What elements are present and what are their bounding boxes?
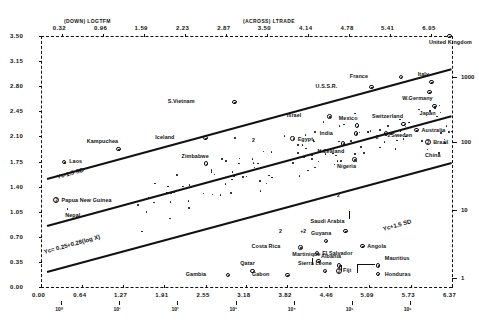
x-tick-label: 6.37 bbox=[443, 292, 456, 298]
top-tick-label: 2.23 bbox=[176, 25, 189, 31]
right-axis-tick bbox=[452, 77, 457, 78]
right-axis-line bbox=[452, 36, 453, 287]
data-point-marker bbox=[432, 104, 436, 108]
x-tick-mark bbox=[206, 285, 207, 288]
scatter-point bbox=[396, 140, 398, 142]
top-tick-label: 0.96 bbox=[94, 25, 107, 31]
scatter-point bbox=[379, 147, 381, 149]
point-label: Albania bbox=[309, 253, 353, 259]
top-tick-label: 5.41 bbox=[381, 25, 394, 31]
point-label: S.Vietnam bbox=[0, 98, 195, 104]
x-tick-mark bbox=[41, 285, 42, 288]
point-label: Nigeria bbox=[325, 163, 369, 169]
data-point-marker bbox=[429, 80, 433, 84]
scatter-point bbox=[268, 175, 270, 177]
scatter-point bbox=[313, 141, 315, 143]
data-point-marker bbox=[427, 149, 429, 151]
data-point-marker bbox=[427, 90, 431, 94]
x-tick-mark bbox=[287, 285, 288, 288]
scatter-point bbox=[403, 138, 405, 140]
x-tick-mark bbox=[411, 285, 412, 288]
right-axis-label: 1000 bbox=[461, 74, 474, 80]
y-tick-mark bbox=[39, 237, 42, 238]
scatter-point bbox=[141, 231, 143, 233]
x-power-tick bbox=[352, 301, 353, 305]
scatter-point bbox=[252, 158, 254, 160]
right-axis-tick bbox=[452, 210, 457, 211]
y-tick-label: 1.40 bbox=[10, 184, 23, 190]
scatter-point bbox=[212, 194, 214, 196]
x-tick-label: 0.00 bbox=[32, 292, 45, 298]
y-tick-label: 1.05 bbox=[10, 209, 23, 215]
scatter-point bbox=[169, 218, 171, 220]
point-label: U.S.S.R. bbox=[0, 83, 337, 89]
scatter-point bbox=[408, 122, 410, 124]
scatter-point bbox=[203, 193, 205, 195]
y-tick-label: 0.35 bbox=[10, 259, 23, 265]
top-axis-line bbox=[41, 36, 452, 37]
point-label: Israel bbox=[0, 112, 301, 118]
y-tick-label: 0.00 bbox=[10, 284, 23, 290]
x-tick-mark bbox=[246, 285, 247, 288]
overlap-count-marker: 2 bbox=[53, 197, 59, 203]
scatter-point bbox=[448, 131, 450, 133]
scatter-point bbox=[234, 137, 236, 139]
point-label: Australia bbox=[422, 127, 446, 133]
data-point-marker bbox=[343, 229, 347, 233]
point-label: Laos bbox=[69, 158, 82, 164]
scatter-point bbox=[266, 183, 268, 185]
point-label: Angola bbox=[367, 243, 386, 249]
y-tick-mark bbox=[39, 212, 42, 213]
saudi-arabia-leader-line bbox=[349, 211, 350, 219]
point-label: Brazil bbox=[433, 139, 448, 145]
scatter-point bbox=[253, 162, 255, 164]
scatter-point bbox=[387, 125, 389, 127]
mauritius-bracket-left bbox=[357, 264, 358, 273]
point-label: France bbox=[0, 73, 368, 79]
x-power-tick bbox=[410, 301, 411, 305]
data-point-marker bbox=[414, 128, 418, 132]
data-point-marker bbox=[447, 34, 451, 38]
x-tick-label: 3.18 bbox=[237, 292, 250, 298]
scatter-point bbox=[368, 132, 370, 134]
lower-sd-band-label: Yc-1.5 SD bbox=[56, 167, 84, 180]
x-tick-mark bbox=[369, 285, 370, 288]
scatter-point bbox=[292, 162, 294, 164]
x-tick-mark bbox=[82, 285, 83, 288]
scatter-point bbox=[363, 152, 365, 154]
x-tick-mark bbox=[164, 285, 165, 288]
point-label: Gabon bbox=[0, 271, 269, 277]
top-tick-label: 4.78 bbox=[340, 25, 353, 31]
scatter-point bbox=[225, 183, 227, 185]
x-power-label: 10⁴ bbox=[288, 306, 296, 312]
scatter-point bbox=[325, 153, 327, 155]
x-tick-label: 2.55 bbox=[197, 292, 210, 298]
scatter-point bbox=[439, 105, 441, 107]
data-point-marker bbox=[355, 123, 359, 127]
scatter-point bbox=[271, 151, 273, 153]
x-tick-label: 1.91 bbox=[155, 292, 168, 298]
point-label: Honduras bbox=[385, 271, 411, 277]
scatter-point bbox=[220, 194, 222, 196]
y-tick-label: 0.70 bbox=[10, 234, 23, 240]
right-axis-tick bbox=[452, 142, 457, 143]
y-tick-mark bbox=[39, 262, 42, 263]
x-power-label: 10⁵ bbox=[346, 306, 354, 312]
upper-sd-band-label: Yc+1.5 SD bbox=[382, 218, 412, 232]
y-tick-mark bbox=[39, 36, 42, 37]
x-power-label: 10² bbox=[171, 306, 178, 312]
scatter-point bbox=[359, 132, 361, 134]
y-tick-mark bbox=[39, 187, 42, 188]
scatter-point bbox=[188, 207, 190, 209]
scatter-point bbox=[260, 190, 262, 192]
scatter-point bbox=[211, 171, 213, 173]
scatter-point bbox=[231, 179, 233, 181]
data-point-marker bbox=[232, 100, 236, 104]
scatter-point bbox=[146, 211, 148, 213]
scatter-point bbox=[360, 146, 362, 148]
data-point-marker bbox=[352, 157, 356, 161]
scatter-point bbox=[221, 158, 223, 160]
scatter-point bbox=[271, 177, 273, 179]
scatter-point bbox=[318, 161, 320, 163]
data-point-marker bbox=[285, 273, 289, 277]
